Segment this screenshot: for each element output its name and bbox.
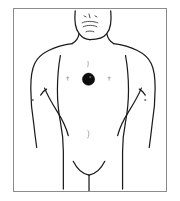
groin-right-fold: [89, 161, 105, 175]
neck-region: [72, 34, 113, 44]
groin-region: [73, 161, 105, 191]
head-region: [75, 11, 111, 40]
philtrum-line: [89, 14, 90, 18]
right-flank-dot: [144, 99, 146, 101]
right-arm-outer-outline: [114, 44, 155, 148]
left-arm-outer-outline: [31, 44, 72, 148]
right-arm-inner-outline: [118, 88, 142, 135]
neck-left-outline: [72, 34, 79, 44]
left-arm-inner-outline: [45, 88, 69, 135]
groin-left-fold: [73, 161, 89, 175]
torso-right-outline: [123, 55, 129, 189]
chin-crease-line: [86, 31, 94, 32]
left-flank-dot: [32, 99, 34, 101]
chest-lesion-highlight: [89, 76, 91, 78]
figure-frame: Anterior torso diagram Line drawing of a…: [13, 8, 167, 192]
torso-left-outline: [57, 55, 63, 189]
markers-group: [32, 61, 147, 138]
figure-root: Anterior torso diagram Line drawing of a…: [0, 0, 180, 201]
mouth-lower-line: [83, 25, 97, 26]
shoulder-arm-region: [31, 44, 155, 148]
nostril-left-line: [84, 16, 86, 17]
torso-diagram: [14, 9, 166, 191]
neck-right-outline: [107, 34, 114, 44]
nostril-right-line: [95, 16, 97, 17]
chest-lesion-marker[interactable]: [82, 73, 94, 85]
sternum-mark: [88, 61, 89, 66]
umbilicus-mark: [88, 131, 89, 138]
mouth-upper-line: [82, 21, 98, 22]
